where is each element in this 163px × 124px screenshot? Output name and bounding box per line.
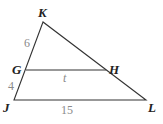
vertex-label-l: L bbox=[147, 100, 156, 115]
vertex-label-h: H bbox=[108, 62, 120, 77]
measure-gj: 4 bbox=[8, 79, 14, 93]
triangle-jkl bbox=[14, 22, 146, 100]
measure-gh: t bbox=[63, 71, 67, 85]
measure-jl: 15 bbox=[61, 103, 73, 117]
measure-kg: 6 bbox=[24, 36, 30, 50]
vertex-label-j: J bbox=[2, 100, 10, 115]
vertex-label-k: K bbox=[37, 5, 48, 20]
vertex-label-g: G bbox=[12, 62, 22, 77]
triangle-diagram: K G H J L 6 4 t 15 bbox=[0, 0, 163, 124]
